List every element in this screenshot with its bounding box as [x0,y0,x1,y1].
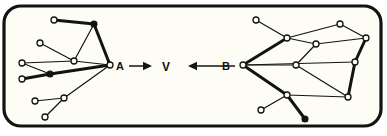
graph-left-node [61,95,67,101]
graph-right-node [345,94,351,100]
graph-right-node [258,107,264,113]
diagram-canvas: A V B [0,0,387,136]
graph-left-node [107,62,113,68]
graph-right-node [363,35,369,41]
graph-left-node [91,21,97,27]
figure-container: A V B [0,0,387,136]
graph-left-node [19,60,25,66]
label-center-vertex: V [162,60,170,74]
graph-right-node [293,62,299,68]
graph-right-node [284,92,290,98]
label-left-graph: A [116,60,124,72]
graph-right-node [352,59,358,65]
graph-left-node [37,40,43,46]
graph-left-node [47,71,53,77]
graph-right-node [253,17,259,23]
graph-left-node [71,58,77,64]
graph-right-node [313,41,319,47]
graph-right-node [302,116,308,122]
graph-left-node [42,114,48,120]
graph-right-node [337,21,343,27]
label-right-graph: B [222,60,230,72]
graph-left-node [32,98,38,104]
graph-left-node [19,76,25,82]
graph-left-node [51,17,57,23]
graph-right-node [284,35,290,41]
graph-right-node [240,62,246,68]
